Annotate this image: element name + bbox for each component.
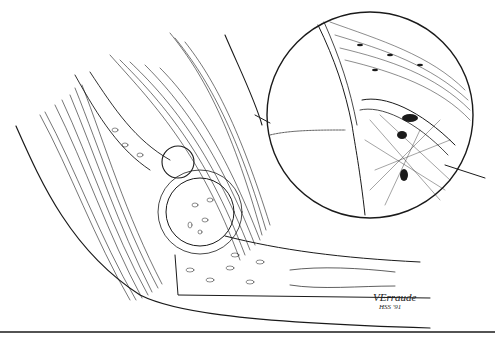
signature-name: VErraude bbox=[373, 292, 416, 303]
artist-signature: VErraude HSS '91 bbox=[373, 292, 416, 311]
bone-head bbox=[166, 178, 234, 246]
magnify-marker bbox=[162, 146, 194, 178]
anatomical-illustration bbox=[0, 0, 495, 340]
signature-date: HSS '91 bbox=[379, 304, 416, 311]
magnified-inset bbox=[267, 12, 473, 218]
